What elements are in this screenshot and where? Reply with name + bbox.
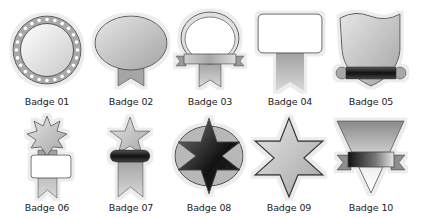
badge-03-label: Badge 03 (170, 96, 250, 107)
badge-03[interactable] (176, 12, 244, 87)
badge-canvas (0, 0, 425, 218)
badge-02-label: Badge 02 (91, 96, 171, 107)
badge-08-label: Badge 08 (169, 202, 249, 213)
badge-06[interactable] (27, 116, 71, 198)
badge-01-label: Badge 01 (7, 96, 87, 107)
badge-07-label: Badge 07 (91, 202, 171, 213)
badge-10-label: Badge 10 (331, 202, 411, 213)
badge-06-label: Badge 06 (7, 202, 87, 213)
badge-04[interactable] (258, 14, 322, 91)
badge-08[interactable] (175, 118, 243, 194)
badge-02[interactable] (95, 16, 167, 86)
badge-07[interactable] (110, 117, 150, 197)
badge-04-label: Badge 04 (250, 96, 330, 107)
badge-05[interactable] (336, 13, 406, 86)
badge-01[interactable] (13, 16, 81, 84)
badge-10[interactable] (337, 121, 405, 193)
badge-09-label: Badge 09 (249, 202, 329, 213)
badge-09[interactable] (255, 118, 323, 197)
badge-05-label: Badge 05 (331, 96, 411, 107)
